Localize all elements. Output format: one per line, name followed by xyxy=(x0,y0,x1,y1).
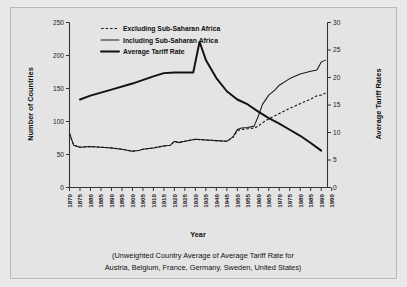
y-axis-left: 050100150200250 xyxy=(53,19,70,191)
chart-plot-area: 050100150200250 051015202530 18701875188… xyxy=(0,0,407,287)
x-axis-tick-label: 1935 xyxy=(202,193,209,207)
figure-container: 050100150200250 051015202530 18701875188… xyxy=(0,0,407,287)
y-axis-left-tick-label: 100 xyxy=(53,118,64,125)
chart-caption-line-2: Austria, Belgium, France, Germany, Swede… xyxy=(105,263,302,272)
series-line xyxy=(70,93,326,151)
y-axis-right-tick-label: 25 xyxy=(333,46,341,53)
x-axis-tick-label: 1870 xyxy=(66,193,73,207)
series-line xyxy=(70,60,326,151)
x-axis: 1870187518801885189018951900190519101915… xyxy=(66,188,335,208)
x-axis-tick-label: 1990 xyxy=(318,193,325,207)
x-axis-tick-label: 1915 xyxy=(160,193,167,207)
x-axis-tick-label: 1925 xyxy=(181,193,188,207)
x-axis-tick-label: 1895 xyxy=(118,193,125,207)
series-line xyxy=(80,42,321,151)
x-axis-tick-label: 1940 xyxy=(213,193,220,207)
x-axis-tick-label: 1945 xyxy=(223,193,230,207)
y-axis-right-tick-label: 20 xyxy=(333,74,341,81)
y-axis-right-tick-label: 5 xyxy=(333,156,337,163)
y-axis-right-tick-label: 0 xyxy=(333,184,337,191)
x-axis-tick-label: 1890 xyxy=(108,193,115,207)
y-axis-left-tick-label: 200 xyxy=(53,52,64,59)
y-axis-left-title: Number of Countries xyxy=(26,67,35,141)
x-axis-tick-label: 1955 xyxy=(244,193,251,207)
line-chart: 050100150200250 051015202530 18701875188… xyxy=(0,0,407,287)
y-axis-left-tick-label: 150 xyxy=(53,85,64,92)
x-axis-tick-label: 1875 xyxy=(76,193,83,207)
x-axis-tick-label: 1965 xyxy=(265,193,272,207)
x-axis-tick-label: 1950 xyxy=(234,193,241,207)
x-axis-tick-label: 1920 xyxy=(171,193,178,207)
x-axis-tick-label: 1930 xyxy=(192,193,199,207)
legend-label: Including Sub-Saharan Africa xyxy=(123,37,218,45)
y-axis-right: 051015202530 xyxy=(328,19,341,191)
x-axis-tick-label: 1980 xyxy=(297,193,304,207)
x-axis-tick-label: 1885 xyxy=(97,193,104,207)
chart-caption-line-1: (Unweighted Country Average of Average T… xyxy=(112,251,294,260)
x-axis-tick-label: 1905 xyxy=(139,193,146,207)
x-axis-title: Year xyxy=(190,230,206,239)
y-axis-left-tick-label: 250 xyxy=(53,19,64,26)
x-axis-tick-label: 1970 xyxy=(276,193,283,207)
y-axis-right-tick-label: 10 xyxy=(333,129,341,136)
x-axis-tick-label: 1990 xyxy=(328,193,335,207)
y-axis-right-tick-label: 30 xyxy=(333,19,341,26)
y-axis-right-title: Average Tariff Rates xyxy=(374,68,383,139)
y-axis-left-tick-label: 0 xyxy=(60,184,64,191)
data-series-group xyxy=(70,42,326,151)
x-axis-tick-label: 1960 xyxy=(255,193,262,207)
x-axis-tick-label: 1910 xyxy=(150,193,157,207)
x-axis-tick-label: 1985 xyxy=(307,193,314,207)
x-axis-tick-label: 1900 xyxy=(129,193,136,207)
legend-label: Excluding Sub-Saharan Africa xyxy=(123,25,220,33)
y-axis-right-tick-label: 15 xyxy=(333,101,341,108)
x-axis-tick-label: 1975 xyxy=(286,193,293,207)
x-axis-tick-label: 1880 xyxy=(87,193,94,207)
legend-label: Average Tariff Rate xyxy=(123,48,185,56)
y-axis-left-tick-label: 50 xyxy=(57,151,65,158)
